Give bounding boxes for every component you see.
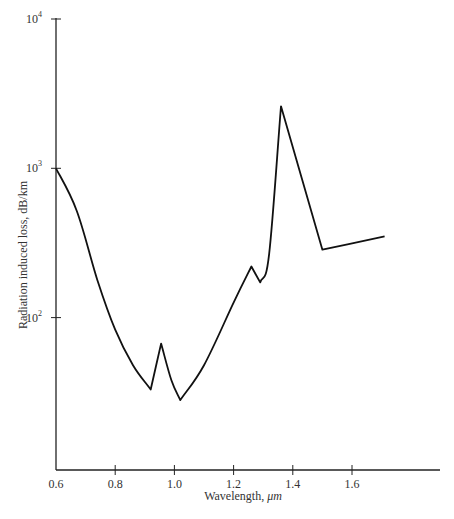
- x-axis: 0.60.81.01.21.41.6: [49, 465, 441, 491]
- x-tick-label: 1.0: [167, 477, 182, 491]
- x-tick-label: 0.8: [108, 477, 123, 491]
- x-tick-label: 0.6: [49, 477, 64, 491]
- loss-vs-wavelength-chart: 102103104 0.60.81.01.21.41.6 Wavelength,…: [0, 0, 454, 519]
- x-tick-label: 1.6: [345, 477, 360, 491]
- y-tick-label: 104: [26, 10, 42, 26]
- y-axis-title: Radiation induced loss, dB/km: [16, 180, 30, 329]
- y-tick-label: 103: [26, 159, 42, 175]
- x-tick-label: 1.4: [285, 477, 300, 491]
- x-axis-title: Wavelength, μm: [204, 489, 282, 503]
- loss-curve: [56, 106, 385, 400]
- x-axis-ticks: 0.60.81.01.21.41.6: [49, 465, 360, 491]
- y-axis: 102103104: [26, 10, 61, 470]
